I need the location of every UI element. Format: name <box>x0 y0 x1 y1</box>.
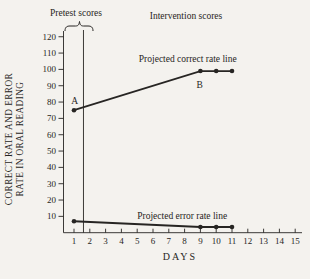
annotation-label: Projected error rate line <box>137 211 227 221</box>
x-tick-label: 5 <box>135 236 140 246</box>
pretest-label: Pretest scores <box>50 8 102 18</box>
y-tick-label: 120 <box>43 32 57 42</box>
data-point <box>72 108 77 113</box>
x-tick-label: 10 <box>212 236 222 246</box>
x-tick-label: 11 <box>228 236 237 246</box>
x-tick-label: 7 <box>167 236 172 246</box>
x-tick-label: 8 <box>182 236 187 246</box>
oral-reading-rate-chart: 102030405060708090100110120 123456789101… <box>0 0 310 279</box>
y-tick-label: 50 <box>47 146 57 156</box>
data-point <box>230 69 235 74</box>
x-tick-label: 13 <box>259 236 269 246</box>
y-tick-label: 70 <box>47 113 57 123</box>
data-point <box>214 69 219 74</box>
data-point <box>230 225 235 230</box>
x-tick-label: 4 <box>119 236 124 246</box>
y-tick-label: 40 <box>47 162 57 172</box>
x-tick-label: 3 <box>103 236 108 246</box>
x-tick-label: 12 <box>243 236 252 246</box>
y-tick-label: 110 <box>43 48 57 58</box>
behavior-chart-figure: 102030405060708090100110120 123456789101… <box>0 0 310 279</box>
y-tick-label: 10 <box>47 211 57 221</box>
y-tick-label: 90 <box>47 81 57 91</box>
annotation-label: A <box>71 96 78 106</box>
x-tick-label: 1 <box>72 236 77 246</box>
y-tick-label: 100 <box>43 64 57 74</box>
y-axis-title-line1: CORRECT RATE AND ERROR <box>4 72 14 205</box>
y-axis-title: CORRECT RATE AND ERROR RATE IN ORAL READ… <box>4 72 25 205</box>
y-tick-label: 60 <box>47 130 57 140</box>
data-point <box>214 225 219 230</box>
annotation-label: Projected correct rate line <box>139 54 237 64</box>
x-tick-label: 6 <box>151 236 156 246</box>
data-point <box>198 69 203 74</box>
x-tick-label: 2 <box>88 236 93 246</box>
y-tick-label: 20 <box>47 195 57 205</box>
x-tick-label: 15 <box>291 236 301 246</box>
x-tick-label: 9 <box>198 236 203 246</box>
annotation-label: B <box>196 80 202 90</box>
data-point <box>198 225 203 230</box>
x-axis-title: DAYS <box>163 251 197 262</box>
y-tick-label: 80 <box>47 97 57 107</box>
y-axis-title-line2: RATE IN ORAL READING <box>15 82 25 197</box>
x-tick-label: 14 <box>275 236 285 246</box>
y-tick-label: 30 <box>47 179 57 189</box>
intervention-label: Intervention scores <box>150 11 223 21</box>
data-point <box>72 219 77 224</box>
